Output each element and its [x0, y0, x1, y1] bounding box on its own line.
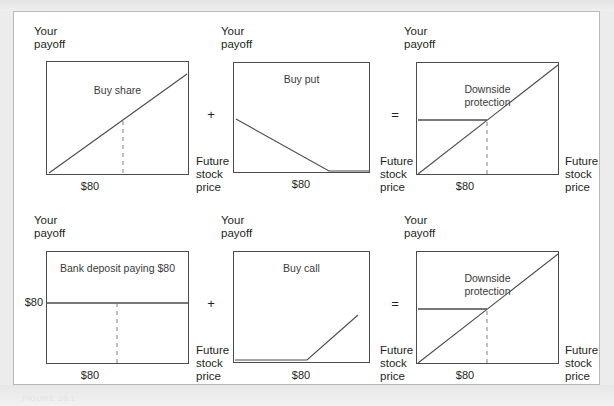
figure-frame: Your payoff Buy share $80 + Future stock…: [13, 11, 600, 385]
axis-caption-top-3: Future stock price: [565, 155, 598, 194]
panel-downside-bottom-xtick: $80: [442, 369, 488, 381]
panel-buy-call-ylabel: Your payoff: [221, 214, 252, 239]
panel-buy-share-plot: Buy share: [46, 61, 189, 175]
panel-buy-call-xtick: $80: [278, 369, 324, 381]
panel-buy-put-plot: Buy put: [233, 62, 370, 173]
axis-caption-bottom-2: Future stock price: [380, 344, 413, 383]
panel-downside-bottom-ylabel: Your payoff: [404, 214, 435, 239]
page-top-shading: [0, 0, 614, 11]
axis-caption-bottom-3: Future stock price: [565, 344, 598, 383]
panel-buy-call-plot: Buy call: [233, 251, 370, 363]
operator-equals-top: =: [388, 107, 402, 122]
panel-buy-put-curves: [234, 63, 371, 174]
operator-equals-bottom: =: [388, 296, 402, 311]
panel-buy-put-xtick: $80: [278, 178, 324, 190]
panel-downside-bottom-plot: Downside protection: [416, 251, 559, 364]
panel-buy-call-curves: [234, 252, 371, 364]
panel-downside-top-plot: Downside protection: [416, 62, 559, 175]
panel-downside-top-ylabel: Your payoff: [404, 25, 435, 50]
panel-bank-deposit-xtick: $80: [67, 369, 113, 381]
axis-caption-top-1: Future stock price: [196, 155, 229, 194]
panel-buy-share-xtick: $80: [67, 180, 113, 192]
panel-bank-deposit-ytick: $80: [12, 296, 43, 308]
panel-bank-deposit-plot: Bank deposit paying $80: [46, 251, 189, 364]
panel-downside-bottom-curves: [417, 252, 560, 365]
panel-downside-top-xtick: $80: [442, 180, 488, 192]
operator-plus-top: +: [204, 107, 218, 122]
page-bottom-shading: [0, 385, 614, 406]
figure-caption-cutoff: FIGURE 20.1: [22, 394, 76, 403]
panel-buy-put-ylabel: Your payoff: [221, 25, 252, 50]
panel-bank-deposit-ylabel: Your payoff: [34, 214, 65, 239]
axis-caption-bottom-1: Future stock price: [196, 344, 229, 383]
panel-downside-top-curves: [417, 63, 560, 176]
panel-buy-share-curves: [47, 62, 190, 176]
panel-bank-deposit-curves: [47, 252, 190, 365]
operator-plus-bottom: +: [204, 296, 218, 311]
axis-caption-top-2: Future stock price: [380, 155, 413, 194]
panel-buy-share-ylabel: Your payoff: [34, 25, 65, 50]
